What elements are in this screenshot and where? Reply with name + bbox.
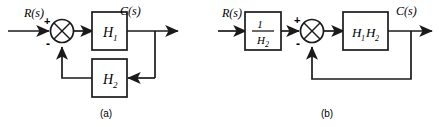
caption-a: (a) [100, 108, 112, 119]
minus-sign-a: - [46, 37, 50, 51]
block-diagram-figure: R(s) + - H 1 C(s) H [0, 0, 439, 127]
inv-h2-denominator-subscript: 2 [265, 40, 269, 49]
summing-junction-a [51, 20, 74, 43]
feedback-block-h2-subscript: 2 [113, 80, 118, 90]
minus-sign-b: - [296, 37, 300, 51]
output-label-b: C(s) [396, 4, 417, 18]
block-diagram-svg: R(s) + - H 1 C(s) H [0, 0, 439, 127]
panel-a: R(s) + - H 1 C(s) H [8, 4, 178, 119]
panel-b: R(s) 1 H 2 + - H 1 H 2 [218, 4, 432, 119]
h1h2-first-subscript: 1 [361, 34, 365, 43]
inv-h2-numerator: 1 [257, 18, 263, 30]
plus-sign-b: + [294, 14, 300, 26]
feedback-wire-a [62, 47, 92, 78]
summing-junction-b [301, 20, 324, 43]
caption-b: (b) [321, 108, 333, 119]
input-label-a: R(s) [23, 6, 44, 20]
forward-block-h1-subscript: 1 [113, 33, 118, 43]
output-label-a: C(s) [120, 4, 141, 18]
input-label-b: R(s) [221, 6, 242, 20]
h1h2-second-subscript: 2 [375, 34, 379, 43]
plus-sign-a: + [44, 15, 50, 27]
